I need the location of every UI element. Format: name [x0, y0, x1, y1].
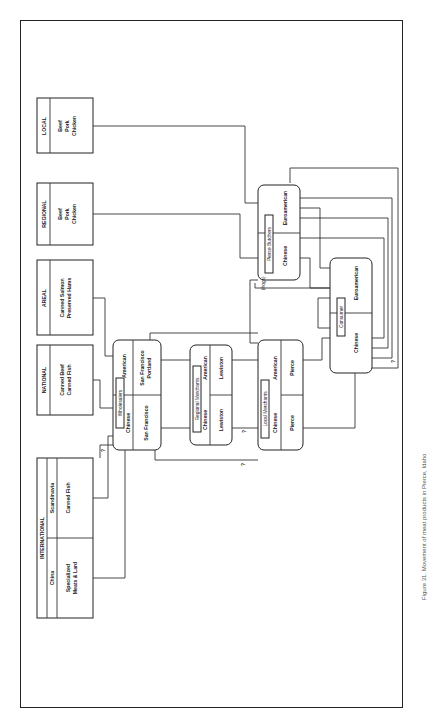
source-areal: AREAL Canned Salmon Preserved Hams — [37, 260, 93, 335]
source-local: LOCAL Beef Pork Chicken — [37, 98, 93, 153]
svg-text:?: ? — [100, 449, 106, 452]
svg-text:NATIONAL: NATIONAL — [41, 366, 47, 393]
node-pierce-butchers: Pierce Butchers Chinese Euroamerican — [258, 185, 300, 280]
svg-text:LOCAL: LOCAL — [41, 116, 47, 135]
source-international: INTERNATIONAL China Scandinavia Speciali… — [37, 458, 93, 618]
svg-text:Chinese: Chinese — [202, 410, 208, 430]
svg-text:Chinese: Chinese — [125, 413, 131, 433]
svg-text:Beef: Beef — [57, 208, 63, 220]
node-regional-merchants: Regional Merchants Chinese American Lewi… — [190, 345, 232, 445]
svg-text:Chicken: Chicken — [71, 204, 77, 224]
svg-text:American: American — [121, 354, 127, 378]
svg-text:China: China — [49, 571, 55, 586]
svg-text:Meats & Lard: Meats & Lard — [72, 562, 78, 595]
svg-text:San Francisco: San Francisco — [139, 350, 145, 385]
svg-text:Pork: Pork — [64, 120, 70, 132]
node-local-merchants: Local Merchants Chinese American Pierce … — [258, 340, 303, 450]
svg-text:Canned Beef: Canned Beef — [59, 364, 65, 396]
svg-text:Scandinavia: Scandinavia — [49, 483, 55, 513]
svg-text:Local Merchants: Local Merchants — [263, 391, 268, 427]
source-national: NATIONAL Canned Beef Canned Fish — [37, 345, 93, 415]
svg-text:Canned Salmon: Canned Salmon — [59, 278, 65, 317]
svg-text:Consumer: Consumer — [339, 306, 344, 329]
svg-text:Chinese: Chinese — [272, 413, 278, 433]
svg-text:REGIONAL: REGIONAL — [41, 199, 47, 227]
svg-text:?: ? — [390, 360, 396, 363]
svg-text:?: ? — [240, 463, 246, 466]
svg-text:Wholesalers: Wholesalers — [118, 389, 123, 416]
node-consumer: Consumer Chinese Euroamerican — [330, 258, 372, 373]
meat-flow-diagram: INTERNATIONAL China Scandinavia Speciali… — [0, 0, 434, 728]
figure-caption: Figure 31. Movement of meat products in … — [421, 453, 427, 600]
node-wholesalers: Wholesalers Chinese American San Francis… — [113, 340, 161, 450]
svg-text:Euroamerican: Euroamerican — [353, 266, 359, 301]
svg-text:Lewiston: Lewiston — [218, 357, 224, 379]
svg-text:Pierce: Pierce — [289, 415, 295, 431]
svg-text:American: American — [202, 356, 208, 380]
source-title: INTERNATIONAL — [39, 516, 45, 559]
svg-text:Regional Merchants: Regional Merchants — [195, 377, 200, 420]
svg-text:Figure 31. Movement of meat pr: Figure 31. Movement of meat products in … — [421, 453, 427, 600]
svg-text:Euroamerican: Euroamerican — [282, 191, 288, 226]
svg-text:Pork: Pork — [64, 208, 70, 220]
svg-text:Pierce Butchers: Pierce Butchers — [267, 226, 272, 260]
svg-text:Beef: Beef — [57, 120, 63, 132]
svg-text:Chinese: Chinese — [282, 246, 288, 266]
svg-text:Chinese: Chinese — [353, 333, 359, 353]
svg-text:AREAL: AREAL — [41, 288, 47, 307]
svg-text:?: ? — [241, 430, 247, 433]
svg-text:American: American — [272, 356, 278, 380]
svg-text:San Francisco: San Francisco — [143, 405, 149, 440]
svg-text:Chicken: Chicken — [71, 116, 77, 136]
svg-text:Canned Fish: Canned Fish — [66, 364, 72, 395]
svg-text:Specialized: Specialized — [65, 564, 71, 592]
svg-text:Canned Fish: Canned Fish — [65, 482, 71, 513]
svg-text:Lewiston: Lewiston — [218, 409, 224, 431]
source-regional: REGIONAL Beef Pork Chicken — [37, 183, 93, 245]
svg-text:Pierce: Pierce — [289, 360, 295, 376]
svg-text:Portland: Portland — [146, 357, 152, 378]
svg-text:Preserved Hams: Preserved Hams — [66, 278, 72, 319]
